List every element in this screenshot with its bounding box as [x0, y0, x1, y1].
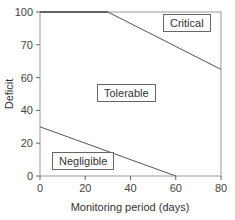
- y-tick-label: 0: [27, 170, 33, 182]
- x-axis-title: Monitoring period (days): [71, 201, 190, 213]
- x-tick-label: 40: [124, 182, 136, 194]
- x-axis: [40, 176, 221, 180]
- x-tick-label: 20: [79, 182, 91, 194]
- region-label-critical: Critical: [163, 14, 211, 32]
- y-axis-title: Deficit: [3, 79, 15, 110]
- x-tick-label: 60: [170, 182, 182, 194]
- y-tick-label: 100: [15, 6, 33, 18]
- x-tick-label: 0: [37, 182, 43, 194]
- y-tick-label: 70: [21, 39, 33, 51]
- y-tick-label: 60: [21, 72, 33, 84]
- x-tick-label: 80: [215, 182, 227, 194]
- y-tick-label: 40: [21, 104, 33, 116]
- chart-canvas: 0 20 40 60 70 100 0 20 40 60 80 Deficit …: [0, 0, 235, 220]
- region-label-tolerable: Tolerable: [97, 84, 156, 102]
- y-axis: [36, 12, 40, 176]
- y-tick-label: 20: [21, 137, 33, 149]
- region-label-negligible: Negligible: [52, 152, 114, 170]
